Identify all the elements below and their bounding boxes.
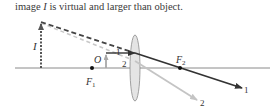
ray-2-refracted [135,61,197,100]
focal-point-1-label: F1 [85,76,96,89]
ray-1-end-label: 1 [244,85,249,95]
ray-1-near-label: 1 [116,47,121,57]
ray-2-virtual-extension [41,23,135,61]
ray-2-near-label: 2 [122,59,127,69]
ray-1-virtual-extension [41,22,135,53]
focal-point-2-label: F2 [175,54,186,67]
focal-point-2-subscript: 2 [182,59,186,67]
converging-lens [130,35,140,101]
focal-point-1-subscript: 1 [92,81,96,89]
focal-point-1 [90,66,94,70]
object-label: O [94,54,101,65]
ray-2-end-label: 2 [200,98,205,108]
image-label: I [32,40,38,52]
lens-ray-diagram: I O F1 F2 1 2 1 2 [0,0,274,112]
